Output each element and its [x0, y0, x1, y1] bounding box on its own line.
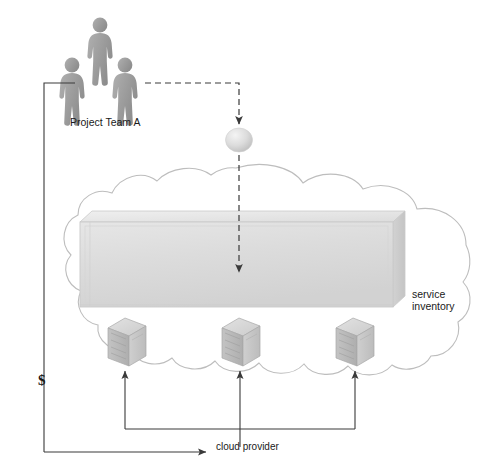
diagram-graphics: [0, 0, 486, 467]
connector-cloud-provider: [44, 371, 355, 452]
diagram-canvas: Project Team A service inventory cloud p…: [0, 0, 486, 467]
label-cloud-provider: cloud provider: [216, 441, 279, 453]
person-icon-1: [87, 18, 112, 86]
server-icon-1: [108, 318, 146, 366]
service-inventory-container: [80, 211, 405, 307]
label-cost-symbol: $: [38, 372, 46, 389]
server-icon-3: [336, 318, 374, 366]
service-sphere-icon: [226, 128, 253, 152]
label-service-inventory: service inventory: [412, 288, 455, 312]
server-icon-2: [222, 318, 260, 366]
label-project-team: Project Team A: [70, 116, 140, 128]
